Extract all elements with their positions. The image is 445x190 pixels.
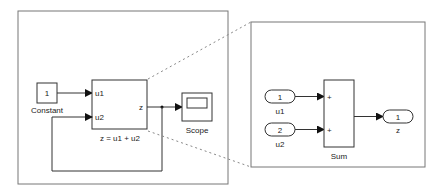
inport-2[interactable]: 2 — [265, 123, 295, 136]
subsystem-label: z = u1 + u2 — [100, 134, 141, 143]
sum-label: Sum — [331, 152, 348, 161]
outport-1-number: 1 — [396, 113, 401, 122]
inport-2-label: u2 — [276, 140, 285, 149]
sum-block[interactable]: + + — [324, 80, 354, 147]
constant-label: Constant — [31, 106, 64, 115]
outport-1-label: z — [396, 126, 400, 135]
scope-block[interactable] — [182, 93, 212, 121]
left-model-panel: 1 Constant u1 u2 z z = u1 + u2 Scope — [18, 11, 228, 184]
scope-label: Scope — [186, 126, 209, 135]
inport-2-number: 2 — [278, 126, 283, 135]
sum-sign-1: + — [327, 93, 332, 102]
subsystem-block[interactable]: u1 u2 z — [92, 80, 147, 129]
subsystem-input-u2: u2 — [95, 113, 104, 122]
inport-1-label: u1 — [276, 107, 285, 116]
scope-screen-icon — [187, 98, 207, 108]
right-subsystem-panel: 1 u1 2 u2 + + Sum 1 z — [251, 22, 425, 167]
subsystem-output-z: z — [139, 103, 143, 112]
inport-1-number: 1 — [278, 93, 283, 102]
constant-block[interactable]: 1 — [37, 83, 57, 103]
subsystem-input-u1: u1 — [95, 89, 104, 98]
sum-sign-2: + — [327, 126, 332, 135]
diagram-canvas: 1 Constant u1 u2 z z = u1 + u2 Scope — [0, 0, 445, 190]
outport-1[interactable]: 1 — [383, 110, 413, 123]
inport-1[interactable]: 1 — [265, 90, 295, 103]
constant-value: 1 — [45, 89, 50, 98]
